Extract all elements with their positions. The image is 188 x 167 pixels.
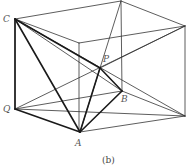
label-a: A bbox=[74, 138, 82, 148]
label-c: C bbox=[3, 14, 10, 24]
figure-caption: (b) bbox=[102, 155, 115, 165]
label-p: P bbox=[102, 54, 110, 64]
label-q: Q bbox=[3, 104, 11, 114]
thick-edges bbox=[15, 19, 122, 132]
cube-diagram: C P B Q A (b) bbox=[0, 0, 188, 167]
label-b: B bbox=[120, 94, 128, 104]
